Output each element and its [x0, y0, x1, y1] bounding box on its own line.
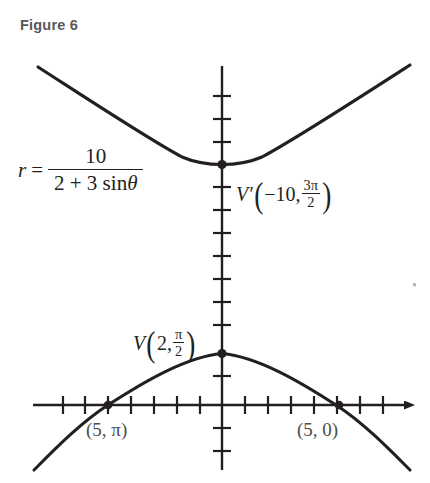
- point-vertex-lower: [217, 349, 226, 358]
- vertex-upper-theta: 3π 2: [302, 178, 320, 210]
- vertex-upper-name: V′: [236, 184, 253, 204]
- theta-denominator: 2: [173, 343, 184, 358]
- vertex-lower-label: V ( 2, π 2 ): [133, 325, 197, 360]
- vertex-upper-r: −10,: [264, 184, 300, 204]
- close-paren: ): [322, 178, 331, 213]
- theta-numerator: 3π: [302, 178, 320, 193]
- point-vertex-upper: [217, 160, 226, 169]
- denominator-text: 2 + 3 sin: [54, 171, 127, 195]
- point-intersection-right: [335, 401, 344, 410]
- vertex-lower-theta: π 2: [173, 327, 184, 359]
- equation-equals: =: [31, 160, 43, 181]
- equation-denominator: 2 + 3 sinθ: [48, 170, 143, 194]
- open-paren: (: [147, 327, 156, 362]
- intersection-right-label: (5, 0): [297, 420, 338, 439]
- vertex-lower-name: V: [133, 333, 145, 353]
- theta-denominator: 2: [305, 194, 316, 209]
- polar-equation: r = 10 2 + 3 sinθ: [18, 146, 143, 194]
- axis-group: [33, 66, 405, 470]
- open-paren: (: [254, 178, 263, 213]
- intersection-left-label: (5, π): [86, 420, 127, 439]
- theta-numerator: π: [173, 327, 184, 342]
- vertex-lower-r: 2,: [157, 333, 172, 353]
- polar-hyperbola-plot: [0, 0, 430, 483]
- equation-numerator: 10: [79, 146, 112, 169]
- vertex-upper-label: V′ ( −10, 3π 2 ): [236, 176, 333, 211]
- close-paren: ): [186, 327, 195, 362]
- theta-symbol: θ: [127, 171, 137, 195]
- equation-lhs: r: [18, 160, 26, 181]
- figure-container: Figure 6: [0, 0, 430, 483]
- equation-fraction: 10 2 + 3 sinθ: [48, 146, 143, 194]
- scan-speck: [413, 283, 416, 287]
- point-intersection-left: [104, 401, 113, 410]
